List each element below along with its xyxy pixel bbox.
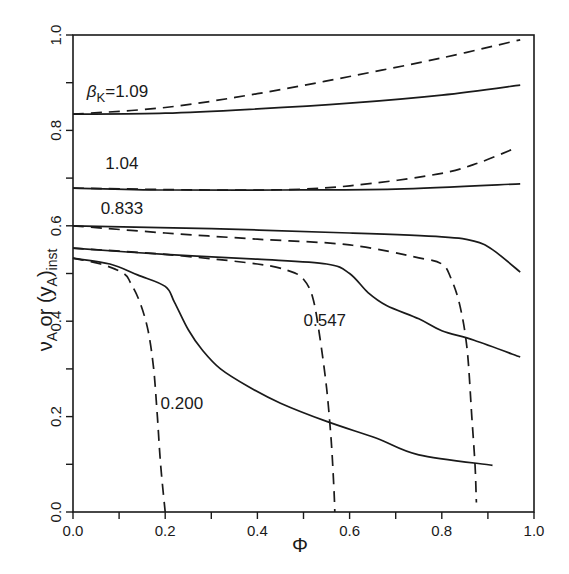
curve-labels: βK=1.091.040.8330.5470.200 bbox=[86, 82, 346, 413]
x-tick-label: 1.0 bbox=[524, 522, 545, 539]
y-axis-title: νA or (yA)inst bbox=[34, 249, 60, 352]
curve-label: 0.547 bbox=[304, 311, 347, 330]
curve-beta-0-200-dashed bbox=[73, 258, 165, 512]
curve-label: 0.200 bbox=[161, 394, 204, 413]
x-tick-label: 0.0 bbox=[63, 522, 84, 539]
y-tick-label: 0.8 bbox=[47, 120, 64, 141]
y-tick-label: 0.6 bbox=[47, 215, 64, 236]
curve-beta-0-547-dashed bbox=[73, 248, 335, 512]
curve-label: 1.04 bbox=[105, 154, 138, 173]
x-tick-label: 0.6 bbox=[339, 522, 360, 539]
curve-label: βK=1.09 bbox=[86, 82, 148, 105]
curve-beta-0-833-solid bbox=[73, 226, 520, 272]
x-tick-label: 0.4 bbox=[247, 522, 268, 539]
curve-beta-0-547-solid bbox=[73, 248, 520, 357]
y-tick-label: 0.2 bbox=[47, 406, 64, 427]
x-tick-label: 0.2 bbox=[155, 522, 176, 539]
y-tick-label: 1.0 bbox=[47, 25, 64, 46]
x-axis-title: Φ bbox=[292, 534, 308, 556]
y-title-nu: ν bbox=[34, 341, 56, 351]
y-tick-label: 0.0 bbox=[47, 502, 64, 523]
chart: 0.00.20.40.60.81.00.00.20.40.60.81.0 βK=… bbox=[0, 0, 569, 574]
curve-beta-1-04-dashed bbox=[73, 148, 516, 190]
curve-beta-1-09-dashed bbox=[73, 40, 520, 114]
curve-label: 0.833 bbox=[101, 199, 144, 218]
x-tick-label: 0.8 bbox=[431, 522, 452, 539]
svg-text:νA or (yA)inst: νA or (yA)inst bbox=[34, 249, 60, 352]
curves bbox=[73, 40, 520, 512]
curve-beta-0-200-solid bbox=[73, 258, 493, 465]
